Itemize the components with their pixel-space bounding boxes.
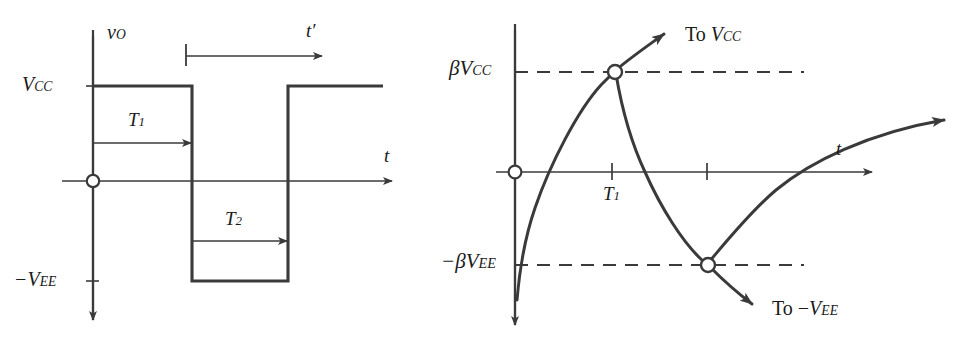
- right-plot-group: [496, 24, 944, 325]
- vcc-subscript: CC: [34, 79, 52, 94]
- right-t1-subscript: 1: [614, 188, 620, 203]
- right-t-axis-label: t: [836, 139, 841, 158]
- exp-fall-segment: [616, 74, 707, 264]
- vcc-symbol: V: [22, 73, 34, 95]
- t2-symbol: T: [225, 208, 236, 229]
- beta-vee-symbol: −βV: [441, 249, 478, 273]
- left-vee-label: −VEE: [14, 269, 56, 289]
- beta-vee-subscript: EE: [478, 255, 495, 271]
- t1-label: T1: [128, 110, 145, 129]
- figure-svg: [0, 0, 979, 337]
- beta-vcc-subscript: CC: [472, 62, 491, 78]
- to-vee-label: To −VEE: [772, 298, 838, 318]
- to-vcc-prefix: To: [685, 23, 711, 45]
- t2-label: T2: [225, 209, 242, 228]
- beta-vee-label: −βVEE: [441, 251, 496, 272]
- figure-container: vO VCC −VEE T1 T2 t′ t βVCC −βVEE T1 To …: [0, 0, 979, 337]
- right-origin-marker: [509, 166, 522, 179]
- exp-rise-segment-2: [709, 120, 944, 262]
- to-vcc-label: To VCC: [685, 24, 741, 44]
- exp-arrow-to-vcc: [616, 34, 664, 70]
- to-vee-prefix: To −: [772, 297, 809, 319]
- beta-vcc-label: βVCC: [449, 58, 491, 79]
- vee-symbol: −V: [14, 268, 40, 290]
- to-vee-symbol: V: [809, 297, 821, 319]
- y-axis-symbol: v: [107, 21, 116, 43]
- vee-subscript: EE: [40, 274, 57, 289]
- left-y-axis-label: vO: [107, 22, 126, 42]
- t1-symbol: T: [128, 109, 139, 130]
- period-marker-label: t′: [306, 21, 315, 40]
- t1-subscript: 1: [139, 114, 145, 129]
- left-t-axis-label: t: [384, 146, 389, 165]
- beta-vcc-symbol: βV: [449, 56, 472, 80]
- to-vcc-symbol: V: [711, 23, 723, 45]
- left-plot-group: [62, 30, 392, 320]
- to-vcc-subscript: CC: [723, 29, 741, 44]
- right-t1-tick-label: T1: [603, 184, 620, 203]
- beta-vcc-crossing-marker: [608, 65, 622, 79]
- t2-subscript: 2: [236, 213, 242, 228]
- exp-arrow-to-vee: [711, 268, 752, 304]
- left-origin-marker: [87, 175, 99, 187]
- left-vcc-label: VCC: [22, 74, 52, 94]
- to-vee-subscript: EE: [821, 303, 838, 318]
- right-t1-symbol: T: [603, 183, 614, 204]
- beta-vee-crossing-marker: [701, 258, 715, 272]
- y-axis-subscript: O: [116, 27, 126, 42]
